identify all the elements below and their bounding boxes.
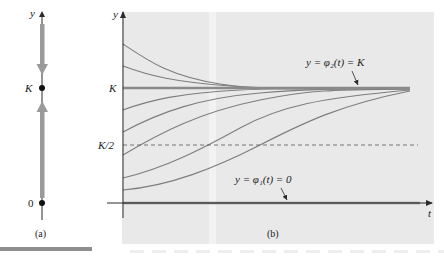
phase-line-y-label: y — [29, 7, 35, 19]
down-arrow-icon — [37, 64, 49, 75]
y-tick-half-k: K/2 — [97, 139, 114, 151]
down-flow-arrow-shaft — [40, 24, 45, 66]
panel-a-caption: (a) — [35, 228, 46, 240]
y-tick-k: K — [108, 82, 117, 94]
up-flow-arrow-shaft — [40, 110, 45, 198]
phase-line-zero-label: 0 — [28, 197, 34, 209]
panel-b-caption: (b) — [267, 228, 279, 240]
page-edge-bar — [0, 247, 92, 251]
annotation-phi1: y = φ₁(t) = 0 — [234, 173, 292, 186]
equilibrium-point-zero — [39, 200, 45, 206]
panel-b-solution-curves: y t K K/2 y = φ₂(t) = K y = φ₁(t) = 0 (b… — [97, 8, 434, 244]
annotation-phi2: y = φ₂(t) = K — [305, 56, 365, 69]
cut-off-caption-strip — [130, 250, 444, 253]
panel-a-phase-line: y K 0 (a) — [24, 7, 48, 240]
y-axis-label: y — [112, 8, 118, 20]
plot-light-stripe — [209, 12, 216, 244]
phase-line-arrowhead-icon — [39, 11, 45, 17]
equilibrium-point-k — [39, 85, 45, 91]
plot-background — [122, 12, 434, 244]
figure: y K 0 (a) — [0, 0, 444, 258]
phase-line-k-label: K — [24, 82, 33, 94]
